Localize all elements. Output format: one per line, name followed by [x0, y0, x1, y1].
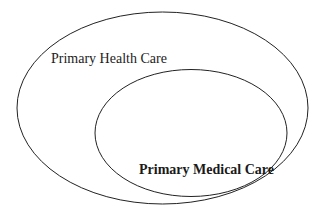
ellipses: [0, 0, 325, 217]
inner-label: Primary Medical Care: [139, 162, 274, 178]
diagram-canvas: Primary Health Care Primary Medical Care: [0, 0, 325, 217]
outer-label: Primary Health Care: [51, 51, 167, 67]
